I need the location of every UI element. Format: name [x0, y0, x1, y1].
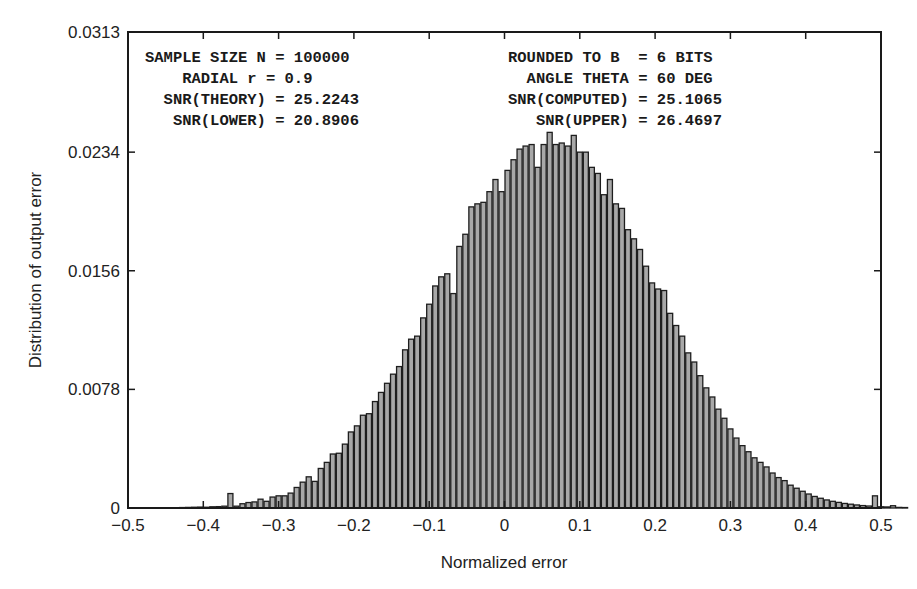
histogram-bar — [391, 374, 396, 508]
x-tick-label: 0.3 — [719, 516, 743, 535]
histogram-bar — [318, 468, 323, 508]
y-axis-tick-labels: 00.00780.01560.02340.0313 — [68, 23, 120, 518]
histogram-bar — [547, 132, 552, 508]
histogram-bar — [722, 418, 727, 508]
histogram-bar — [710, 397, 715, 508]
y-tick-label: 0 — [111, 499, 120, 518]
histogram-bar — [812, 496, 817, 508]
histogram-bar — [535, 167, 540, 508]
histogram-bar — [282, 496, 287, 508]
x-axis-title: Normalized error — [441, 553, 568, 572]
histogram-bar — [806, 494, 811, 508]
histogram-bar — [553, 145, 558, 508]
histogram-bar — [523, 146, 528, 508]
histogram-bar — [601, 195, 606, 508]
histogram-bar — [469, 207, 474, 508]
histogram-bar — [397, 367, 402, 508]
histogram-bar — [824, 500, 829, 508]
histogram-bar — [409, 339, 414, 508]
histogram-bar — [752, 458, 757, 508]
histogram-bar — [433, 286, 438, 508]
histogram-bar — [734, 438, 739, 508]
histogram-bar — [300, 482, 305, 508]
histogram-bar — [312, 481, 317, 508]
histogram-bar — [403, 350, 408, 508]
histogram-bar — [595, 173, 600, 508]
x-tick-label: −0.3 — [262, 516, 296, 535]
x-tick-label: 0.2 — [643, 516, 667, 535]
histogram-bar — [872, 496, 877, 508]
histogram-bar — [662, 291, 667, 508]
annotation-snr-computed: SNR(COMPUTED) = 25.1065 — [508, 91, 722, 109]
y-tick-label: 0.0078 — [68, 380, 120, 399]
annotation-snr-upper: SNR(UPPER) = 26.4697 — [508, 112, 722, 130]
histogram-bar — [746, 452, 751, 508]
x-axis-tick-labels: −0.5−0.4−0.3−0.2−0.100.10.20.30.40.5 — [111, 516, 893, 535]
histogram-bar — [583, 152, 588, 508]
histogram-chart: −0.5−0.4−0.3−0.2−0.100.10.20.30.40.5 00.… — [0, 0, 917, 589]
histogram-bar — [758, 462, 763, 508]
histogram-bar — [451, 294, 456, 508]
histogram-bar — [728, 429, 733, 508]
histogram-bar — [529, 145, 534, 508]
histogram-bars — [174, 132, 908, 508]
histogram-bar — [776, 478, 781, 508]
histogram-bar — [421, 318, 426, 508]
histogram-bar — [445, 274, 450, 508]
histogram-bar — [559, 143, 564, 508]
histogram-bar — [686, 353, 691, 508]
histogram-bar — [650, 283, 655, 508]
histogram-bar — [499, 192, 504, 508]
histogram-bar — [704, 388, 709, 508]
histogram-bar — [830, 501, 835, 508]
histogram-bar — [764, 467, 769, 508]
x-tick-label: −0.2 — [337, 516, 371, 535]
annotation-left: SAMPLE SIZE N = 100000 RADIAL r = 0.9 SN… — [145, 49, 359, 130]
histogram-bar — [270, 497, 275, 508]
histogram-bar — [505, 170, 510, 508]
annotation-sample-size: SAMPLE SIZE N = 100000 — [145, 49, 350, 67]
histogram-bar — [565, 146, 570, 508]
y-axis-title: Distribution of output error — [26, 171, 45, 368]
histogram-bar — [354, 426, 359, 508]
histogram-bar — [613, 204, 618, 508]
histogram-bar — [891, 506, 896, 508]
histogram-bar — [366, 414, 371, 508]
histogram-bar — [698, 376, 703, 508]
histogram-bar — [541, 145, 546, 508]
annotation-radial: RADIAL r = 0.9 — [145, 70, 312, 88]
histogram-bar — [619, 208, 624, 508]
x-tick-label: −0.4 — [187, 516, 221, 535]
histogram-bar — [638, 249, 643, 508]
histogram-bar — [632, 239, 637, 508]
histogram-bar — [372, 402, 377, 508]
histogram-bar — [903, 508, 908, 509]
histogram-bar — [589, 167, 594, 508]
histogram-bar — [517, 149, 522, 508]
x-tick-label: −0.1 — [412, 516, 446, 535]
histogram-bar — [306, 477, 311, 508]
histogram-bar — [897, 507, 902, 508]
histogram-bar — [360, 415, 365, 508]
annotation-snr-lower: SNR(LOWER) = 20.8906 — [145, 112, 359, 130]
histogram-bar — [487, 192, 492, 508]
histogram-bar — [788, 485, 793, 508]
histogram-bar — [294, 487, 299, 508]
annotation-rounded-bits: ROUNDED TO B = 6 BITS — [508, 49, 713, 67]
histogram-bar — [415, 336, 420, 508]
histogram-bar — [228, 494, 233, 508]
histogram-bar — [571, 135, 576, 508]
histogram-bar — [656, 289, 661, 508]
histogram-bar — [740, 446, 745, 508]
histogram-bar — [330, 454, 335, 508]
histogram-bar — [475, 204, 480, 508]
annotation-angle-theta: ANGLE THETA = 60 DEG — [508, 70, 713, 88]
histogram-bar — [493, 180, 498, 508]
y-tick-label: 0.0234 — [68, 143, 120, 162]
annotation-snr-theory: SNR(THEORY) = 25.2243 — [145, 91, 359, 109]
histogram-bar — [264, 501, 269, 508]
x-tick-label: 0.1 — [568, 516, 592, 535]
histogram-bar — [336, 453, 341, 508]
histogram-bar — [770, 473, 775, 508]
histogram-bar — [463, 234, 468, 508]
